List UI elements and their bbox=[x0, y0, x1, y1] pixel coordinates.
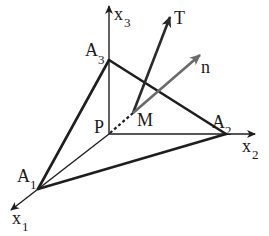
label-t: T bbox=[174, 8, 185, 28]
svg-text:A: A bbox=[17, 166, 30, 186]
svg-text:x: x bbox=[114, 4, 123, 24]
label-x3: x 3 bbox=[114, 4, 131, 30]
svg-text:1: 1 bbox=[30, 177, 37, 192]
svg-text:3: 3 bbox=[124, 15, 131, 30]
label-m: M bbox=[137, 110, 153, 130]
dashed-line-p-m bbox=[110, 113, 133, 133]
svg-text:x: x bbox=[12, 208, 21, 228]
svg-text:A: A bbox=[85, 40, 98, 60]
edge-a1-a2 bbox=[38, 134, 226, 189]
label-p: P bbox=[94, 117, 104, 137]
svg-text:A: A bbox=[212, 112, 225, 132]
svg-text:2: 2 bbox=[252, 147, 259, 162]
label-x2: x 2 bbox=[242, 136, 259, 162]
svg-text:x: x bbox=[242, 136, 251, 156]
tetrahedron-diagram: x 3 x 2 x 1 A 3 A 2 A 1 P M T n bbox=[0, 0, 269, 236]
label-a1: A 1 bbox=[17, 166, 37, 192]
label-x1: x 1 bbox=[12, 208, 29, 234]
svg-text:2: 2 bbox=[225, 123, 232, 138]
svg-text:1: 1 bbox=[22, 219, 29, 234]
svg-text:3: 3 bbox=[98, 52, 105, 67]
label-a3: A 3 bbox=[85, 40, 105, 67]
label-n: n bbox=[201, 57, 210, 77]
